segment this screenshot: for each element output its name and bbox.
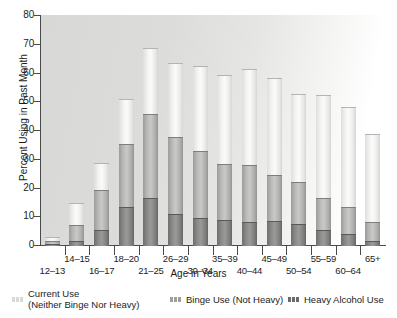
segment-binge-use: [365, 222, 380, 241]
segment-current-use: [119, 99, 134, 144]
segment-current-use: [193, 66, 208, 150]
legend-label: Current Use(Neither Binge Nor Heavy): [28, 288, 139, 310]
legend-label: Binge Use (Not Heavy): [186, 294, 283, 305]
segment-binge-use: [316, 198, 331, 230]
y-axis-title: Percent Using in Past Month: [18, 43, 29, 193]
bar-65+: [365, 134, 380, 246]
segment-heavy-alcohol-use: [341, 234, 356, 246]
segment-binge-use: [69, 225, 84, 241]
bar-30-34: [193, 66, 208, 246]
segment-heavy-alcohol-use: [242, 222, 257, 246]
y-axis-tick-label: 80: [2, 9, 34, 20]
segment-heavy-alcohol-use: [168, 214, 183, 246]
segment-current-use: [267, 78, 282, 175]
bar-16-17: [94, 163, 109, 246]
bar-12-13: [45, 237, 60, 246]
bar-14-15: [69, 203, 84, 246]
legend-item: Current Use(Neither Binge Nor Heavy): [12, 288, 139, 310]
x-axis-tick-label: 45–49: [257, 253, 291, 264]
x-axis-tick-label: 18–20: [109, 253, 143, 264]
segment-heavy-alcohol-use: [267, 221, 282, 246]
legend-swatch-icon: [288, 297, 299, 302]
segment-binge-use: [94, 190, 109, 230]
segment-current-use: [168, 63, 183, 136]
segment-binge-use: [143, 114, 158, 199]
legend-item: Binge Use (Not Heavy): [170, 294, 283, 305]
segment-heavy-alcohol-use: [291, 224, 306, 246]
segment-heavy-alcohol-use: [217, 220, 232, 246]
segment-current-use: [94, 163, 109, 190]
segment-current-use: [217, 75, 232, 164]
x-axis-tick-label: 55–59: [306, 253, 340, 264]
segment-current-use: [365, 134, 380, 222]
segment-current-use: [341, 107, 356, 208]
legend-item: Heavy Alcohol Use: [288, 294, 384, 305]
bar-26-29: [168, 63, 183, 246]
bar-50-54: [291, 94, 306, 246]
segment-heavy-alcohol-use: [119, 207, 134, 246]
x-axis-tick-label: 65+: [356, 253, 390, 264]
y-axis-tick-label: 10: [2, 210, 34, 221]
segment-current-use: [242, 69, 257, 165]
bar-45-49: [267, 78, 282, 246]
bar-60-64: [341, 107, 356, 246]
chart-legend: Current Use(Neither Binge Nor Heavy)Bing…: [0, 286, 397, 318]
segment-binge-use: [217, 164, 232, 220]
segment-binge-use: [168, 137, 183, 214]
segment-binge-use: [341, 207, 356, 233]
segment-current-use: [316, 95, 331, 197]
alcohol-use-by-age-chart: 01020304050607080 Percent Using in Past …: [0, 0, 397, 318]
y-axis-tick-label: 0: [2, 239, 34, 250]
segment-heavy-alcohol-use: [143, 198, 158, 246]
legend-label: Heavy Alcohol Use: [304, 294, 384, 305]
legend-swatch-icon: [170, 297, 181, 302]
x-axis-title: Age in Years: [0, 268, 397, 279]
segment-heavy-alcohol-use: [94, 230, 109, 246]
bars-container: [40, 15, 385, 246]
x-axis-tick-label: 35–39: [208, 253, 242, 264]
legend-label-line2: (Neither Binge Nor Heavy): [28, 299, 139, 310]
segment-current-use: [69, 203, 84, 225]
segment-heavy-alcohol-use: [316, 230, 331, 247]
x-axis-tick-label: 26–29: [159, 253, 193, 264]
segment-binge-use: [193, 151, 208, 218]
bar-18-20: [119, 99, 134, 246]
x-axis-tick-label: 14–15: [60, 253, 94, 264]
bar-21-25: [143, 48, 158, 246]
bar-40-44: [242, 69, 257, 246]
legend-swatch-icon: [12, 297, 23, 302]
segment-current-use: [143, 48, 158, 114]
segment-binge-use: [119, 144, 134, 207]
segment-binge-use: [242, 165, 257, 223]
segment-binge-use: [291, 182, 306, 224]
segment-binge-use: [267, 175, 282, 221]
segment-current-use: [291, 94, 306, 182]
bar-55-59: [316, 95, 331, 246]
segment-heavy-alcohol-use: [193, 218, 208, 246]
bar-35-39: [217, 75, 232, 246]
